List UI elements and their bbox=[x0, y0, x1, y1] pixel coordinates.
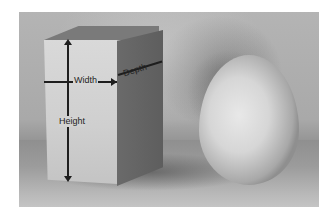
width-arrow-tip-icon bbox=[111, 78, 117, 86]
height-arrow-top-icon bbox=[64, 39, 72, 45]
box-front-face bbox=[44, 40, 117, 184]
width-label: Width bbox=[73, 76, 98, 85]
photograph: Width Height Depth bbox=[19, 12, 319, 207]
height-label: Height bbox=[59, 116, 85, 127]
box-side-face bbox=[117, 30, 163, 186]
height-arrow bbox=[67, 42, 69, 178]
height-arrow-bottom-icon bbox=[64, 176, 72, 182]
